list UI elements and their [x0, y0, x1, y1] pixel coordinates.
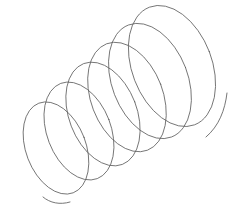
coil-spring-image: [0, 0, 237, 218]
coil-spring-drawing: [0, 0, 237, 218]
image-background: [0, 0, 237, 218]
